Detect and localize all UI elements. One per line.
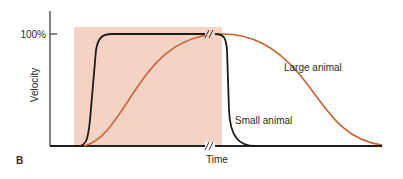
x-axis-label: Time (206, 154, 228, 165)
large-animal-label: Large animal (284, 62, 342, 73)
velocity-diagram: 100% Velocity Time Large animal Small an… (0, 0, 403, 179)
shaded-region (74, 27, 222, 146)
break-mark-top-icon (205, 30, 215, 38)
small-animal-label: Small animal (235, 115, 292, 126)
break-mark-x-axis-icon (205, 142, 215, 150)
y-axis-label: Velocity (29, 68, 40, 102)
figure-label: B (16, 155, 23, 166)
y-tick-label-100: 100% (20, 29, 46, 40)
